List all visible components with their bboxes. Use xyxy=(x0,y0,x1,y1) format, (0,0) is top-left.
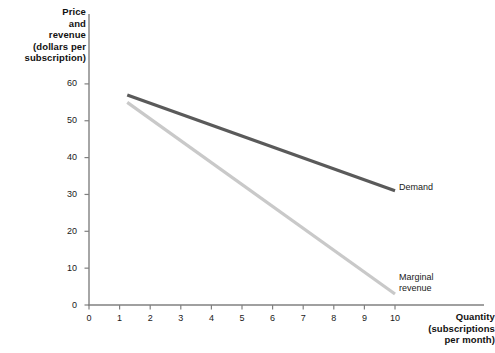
x-axis-tick-label: 1 xyxy=(112,313,128,323)
y-axis-tick-label: 10 xyxy=(55,263,77,273)
y-axis-tick-label: 50 xyxy=(55,115,77,125)
demand-curve-label: Demand xyxy=(399,182,433,193)
y-axis-tick-label: 20 xyxy=(55,226,77,236)
x-axis-tick-label: 3 xyxy=(173,313,189,323)
x-axis-tick-label: 2 xyxy=(142,313,158,323)
marginal-revenue-curve xyxy=(127,102,395,294)
x-axis-tick-label: 9 xyxy=(356,313,372,323)
y-axis-title: Price and revenue (dollars per subscript… xyxy=(0,6,86,64)
x-axis-tick-label: 10 xyxy=(387,313,403,323)
x-axis-tick-label: 4 xyxy=(203,313,219,323)
x-axis-tick-label: 6 xyxy=(265,313,281,323)
x-axis-tick-label: 0 xyxy=(81,313,97,323)
x-axis-tick-label: 5 xyxy=(234,313,250,323)
y-axis-tick-label: 30 xyxy=(55,189,77,199)
demand-curve xyxy=(127,95,395,191)
x-axis-title: Quantity (subscriptions per month) xyxy=(396,311,495,346)
chart-container: Price and revenue (dollars per subscript… xyxy=(0,0,495,353)
y-axis-tick-label: 0 xyxy=(55,300,77,310)
data-series-layer xyxy=(127,95,395,294)
x-axis-tick-label: 8 xyxy=(326,313,342,323)
x-axis-tick-label: 7 xyxy=(295,313,311,323)
marginal-revenue-curve-label: Marginal revenue xyxy=(399,272,434,294)
y-axis-tick-label: 40 xyxy=(55,152,77,162)
y-axis-tick-label: 60 xyxy=(55,78,77,88)
